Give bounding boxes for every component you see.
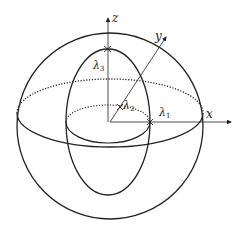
ellipsoid-horizontal-front [66, 122, 150, 143]
sphere-equator-front [17, 113, 203, 147]
diagram-canvas: z y x λ3 λ2 λ1 [0, 0, 243, 231]
y-axis-label: y [154, 29, 162, 43]
y-axis [110, 37, 166, 122]
x-axis-label: x [206, 107, 213, 121]
lambda2-label: λ2 [122, 99, 134, 113]
lambda1-label: λ1 [158, 106, 170, 120]
lambda3-label: λ3 [92, 59, 104, 73]
ellipsoid-diagram: z y x λ3 λ2 λ1 [0, 0, 243, 231]
sphere-equator-back [17, 79, 203, 113]
sphere-outline [17, 33, 203, 219]
z-axis-label: z [111, 11, 119, 25]
